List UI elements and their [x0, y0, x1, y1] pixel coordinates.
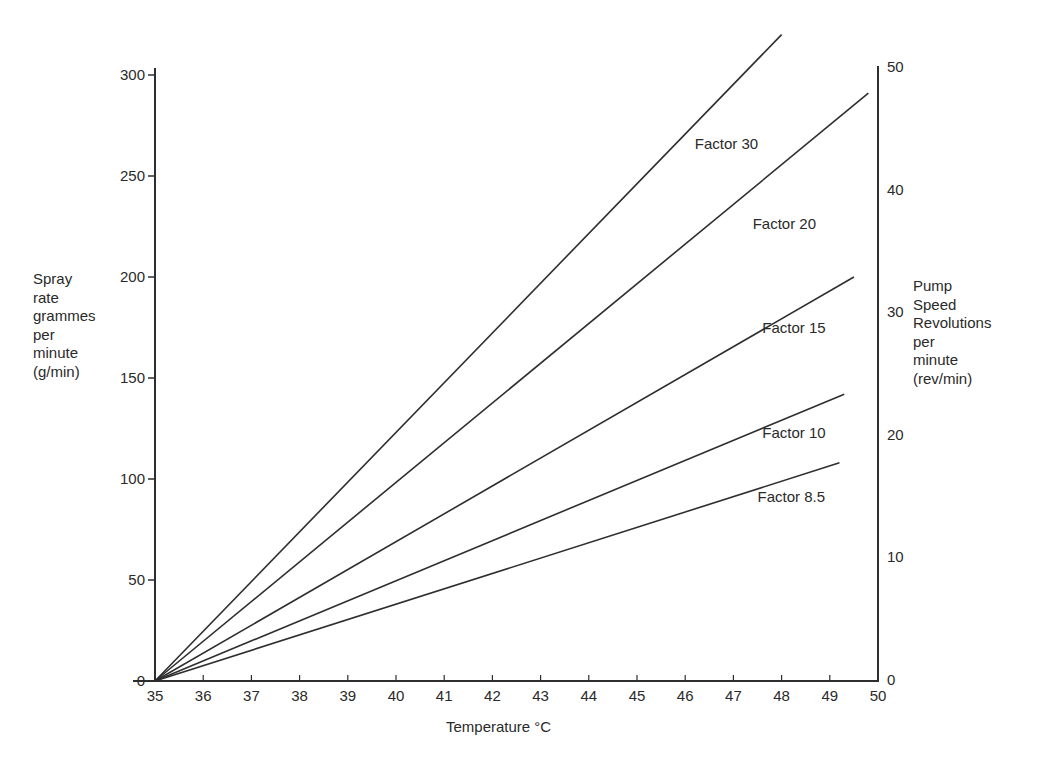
- x-tick-label: 39: [339, 687, 356, 705]
- y-axis-label-line: (g/min): [33, 363, 96, 382]
- y-tick-label: 0: [137, 672, 145, 690]
- y2-tick-label: 50: [887, 58, 904, 76]
- series-line-factor-30: [155, 35, 782, 681]
- y-tick-label: 150: [120, 369, 145, 387]
- y2-tick-label: 20: [887, 426, 904, 444]
- series-line-factor-8-5: [155, 463, 839, 681]
- y-axis-label: Sprayrategrammesperminute(g/min): [33, 270, 96, 381]
- x-tick-label: 43: [532, 687, 549, 705]
- y-axis-label-line: rate: [33, 289, 96, 308]
- y2-tick-label: 30: [887, 303, 904, 321]
- series-line-factor-20: [155, 93, 868, 681]
- y2-tick-label: 40: [887, 181, 904, 199]
- y2-axis-label-line: minute: [913, 351, 991, 370]
- series-label: Factor 8.5: [758, 488, 826, 506]
- y-tick-label: 300: [120, 66, 145, 84]
- x-tick-label: 35: [147, 687, 164, 705]
- series-label: Factor 10: [762, 424, 825, 442]
- series-label: Factor 20: [753, 215, 816, 233]
- x-tick-label: 40: [388, 687, 405, 705]
- y2-tick-label: 0: [887, 671, 895, 689]
- series-line-factor-15: [155, 277, 854, 681]
- y-axis-label-line: Spray: [33, 270, 96, 289]
- x-tick-label: 45: [629, 687, 646, 705]
- x-tick-label: 44: [580, 687, 597, 705]
- x-tick-label: 37: [243, 687, 260, 705]
- x-axis-label: Temperature °C: [446, 718, 551, 736]
- y2-axis-label-line: Pump: [913, 277, 991, 296]
- y2-axis-label-line: (rev/min): [913, 370, 991, 389]
- y-axis-label-line: grammes: [33, 307, 96, 326]
- x-tick-label: 36: [195, 687, 212, 705]
- y-axis-label-line: minute: [33, 344, 96, 363]
- x-tick-label: 46: [677, 687, 694, 705]
- y-tick-label: 200: [120, 268, 145, 286]
- y2-tick-label: 10: [887, 548, 904, 566]
- x-tick-label: 47: [725, 687, 742, 705]
- x-tick-label: 38: [291, 687, 308, 705]
- y2-axis-label-line: Speed: [913, 296, 991, 315]
- series-label: Factor 30: [695, 135, 758, 153]
- series-lines: [155, 35, 868, 681]
- x-tick-label: 48: [773, 687, 790, 705]
- y2-axis-label-line: per: [913, 333, 991, 352]
- x-tick-label: 49: [821, 687, 838, 705]
- y2-axis-label: PumpSpeedRevolutionsperminute(rev/min): [913, 277, 991, 388]
- y2-axis-label-line: Revolutions: [913, 314, 991, 333]
- y-tick-label: 100: [120, 470, 145, 488]
- series-label: Factor 15: [762, 319, 825, 337]
- chart-canvas: [0, 0, 1061, 763]
- y-tick-label: 50: [128, 571, 145, 589]
- series-line-factor-10: [155, 394, 844, 681]
- x-tick-label: 41: [436, 687, 453, 705]
- x-tick-label: 50: [870, 687, 887, 705]
- axes: [133, 66, 878, 682]
- y-axis-label-line: per: [33, 326, 96, 345]
- x-tick-label: 42: [484, 687, 501, 705]
- y-tick-label: 250: [120, 167, 145, 185]
